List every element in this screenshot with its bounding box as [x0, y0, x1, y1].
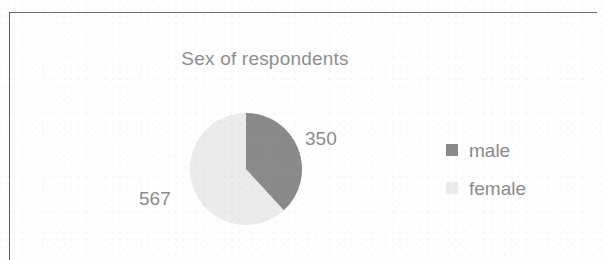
- legend-item-male[interactable]: male: [446, 131, 526, 169]
- chart-frame-left-border: [9, 12, 10, 260]
- legend-item-female[interactable]: female: [446, 169, 526, 207]
- pie-chart-svg: [190, 113, 302, 225]
- chart-legend: male female: [446, 131, 526, 207]
- data-label-male: 350: [305, 128, 337, 150]
- legend-swatch-male-icon: [446, 144, 458, 156]
- chart-title: Sex of respondents: [120, 48, 410, 70]
- chart-screenshot: Sex of respondents 350 567 male female: [0, 0, 603, 260]
- legend-label-male: male: [469, 141, 510, 160]
- pie-chart: [190, 113, 302, 225]
- legend-label-female: female: [469, 179, 526, 198]
- legend-swatch-female-icon: [446, 182, 458, 194]
- chart-frame-top-border: [9, 12, 597, 13]
- data-label-female: 567: [139, 188, 171, 210]
